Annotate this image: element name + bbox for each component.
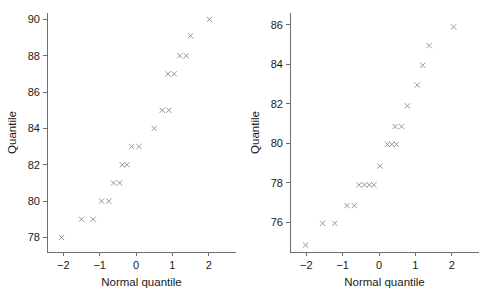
y-axis-title: Quantile — [6, 111, 18, 154]
y-tick-label: 82 — [28, 159, 40, 171]
x-tick-label: 2 — [449, 259, 455, 271]
data-point — [332, 221, 337, 226]
y-tick-label: 88 — [28, 50, 40, 62]
chart-panel-left: 78808284868890−2−1012Normal quantileQuan… — [0, 0, 241, 295]
x-axis-title: Normal quantile — [101, 276, 182, 288]
data-point — [111, 180, 116, 185]
data-point — [405, 103, 410, 108]
x-tick-label: 1 — [169, 259, 175, 271]
data-point — [136, 144, 141, 149]
x-tick-label: −1 — [93, 259, 106, 271]
y-tick-label: 84 — [271, 58, 283, 70]
x-tick-label: 0 — [133, 259, 139, 271]
data-point — [160, 108, 165, 113]
x-tick-label: −1 — [336, 259, 349, 271]
x-axis-title: Normal quantile — [344, 276, 425, 288]
data-point — [165, 71, 170, 76]
data-point — [106, 199, 111, 204]
data-point — [392, 124, 397, 129]
qq-plot-figure: 78808284868890−2−1012Normal quantileQuan… — [0, 0, 483, 295]
scatter-plot-left: 78808284868890−2−1012Normal quantileQuan… — [0, 0, 241, 295]
data-point — [207, 17, 212, 22]
data-point — [377, 163, 382, 168]
y-tick-label: 86 — [271, 19, 283, 31]
data-point — [120, 162, 125, 167]
data-point — [356, 182, 361, 187]
data-point — [344, 203, 349, 208]
data-point — [188, 33, 193, 38]
x-tick-label: 0 — [376, 259, 382, 271]
y-tick-label: 86 — [28, 86, 40, 98]
y-tick-label: 78 — [28, 231, 40, 243]
y-tick-label: 78 — [271, 177, 283, 189]
y-tick-label: 80 — [28, 195, 40, 207]
data-point — [415, 82, 420, 87]
y-tick-label: 82 — [271, 98, 283, 110]
y-tick-label: 76 — [271, 216, 283, 228]
data-point — [427, 43, 432, 48]
data-point — [389, 142, 394, 147]
chart-panel-right: 767880828486−2−1012Normal quantileQuanti… — [241, 0, 482, 295]
data-point — [99, 199, 104, 204]
x-tick-label: −2 — [57, 259, 70, 271]
data-point — [352, 203, 357, 208]
data-point — [124, 162, 129, 167]
data-point — [385, 142, 390, 147]
x-tick-label: −2 — [300, 259, 313, 271]
data-point — [184, 53, 189, 58]
data-point — [59, 235, 64, 240]
data-point — [399, 124, 404, 129]
y-tick-label: 84 — [28, 122, 40, 134]
data-point — [129, 144, 134, 149]
data-point — [367, 182, 372, 187]
data-point — [394, 142, 399, 147]
y-tick-label: 80 — [271, 137, 283, 149]
data-point — [303, 242, 308, 247]
data-point — [362, 182, 367, 187]
x-tick-label: 2 — [206, 259, 212, 271]
data-point — [91, 217, 96, 222]
y-tick-label: 90 — [28, 13, 40, 25]
y-axis-title: Quantile — [249, 111, 261, 154]
data-point — [420, 63, 425, 68]
data-point — [152, 126, 157, 131]
data-point — [172, 71, 177, 76]
scatter-plot-right: 767880828486−2−1012Normal quantileQuanti… — [241, 0, 483, 295]
data-point — [320, 221, 325, 226]
data-point — [166, 108, 171, 113]
data-point — [371, 182, 376, 187]
x-tick-label: 1 — [412, 259, 418, 271]
data-point — [177, 53, 182, 58]
data-point — [117, 180, 122, 185]
data-point — [451, 24, 456, 29]
data-point — [79, 217, 84, 222]
